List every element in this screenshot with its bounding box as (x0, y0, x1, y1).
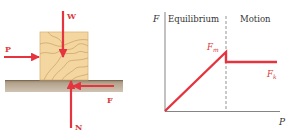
max-friction-label: Fm (206, 42, 219, 53)
weight-label: W (66, 11, 77, 21)
friction-figure: W P F N F P Equilibrium Motion Fm Fk (0, 0, 286, 138)
push-force-arrow: P (4, 44, 39, 57)
y-axis-label: F (152, 14, 160, 24)
normal-label: N (75, 122, 82, 132)
kinetic-friction-label: Fk (266, 69, 277, 80)
friction-curve (165, 52, 277, 111)
friction-graph: F P Equilibrium Motion Fm Fk (152, 12, 286, 127)
equilibrium-region-label: Equilibrium (168, 14, 219, 24)
free-body-diagram: W P F N (4, 11, 123, 132)
push-label: P (5, 44, 11, 54)
x-axis-label: P (278, 117, 286, 127)
motion-region-label: Motion (240, 14, 271, 24)
friction-label: F (107, 95, 113, 105)
